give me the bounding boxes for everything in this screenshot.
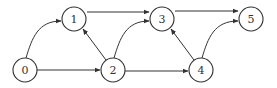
node-0: 0 [13,58,37,82]
node-label: 4 [198,64,205,77]
edge-4-3 [171,29,194,60]
node-label: 0 [22,64,29,77]
node-3: 3 [150,7,174,31]
node-2: 2 [101,58,125,82]
node-label: 5 [248,13,255,26]
node-1: 1 [62,7,86,31]
node-label: 2 [110,64,117,77]
node-label: 1 [71,13,78,26]
node-5: 5 [239,7,263,31]
edge-4-5 [202,21,238,58]
node-label: 3 [159,13,166,26]
node-4: 4 [189,58,213,82]
edge-2-1 [83,29,106,60]
edge-0-1 [26,21,61,58]
edge-2-3 [114,21,149,58]
graph-diagram: 0 1 2 3 4 5 [0,0,277,88]
